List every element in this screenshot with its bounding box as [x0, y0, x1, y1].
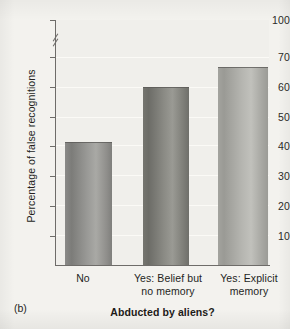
bar-yes-belief-no-memory[interactable] — [143, 87, 189, 265]
y-tick — [50, 87, 55, 88]
x-category-label-no: No — [47, 272, 119, 285]
y-axis-line — [55, 20, 56, 266]
y-tick-label-60: 60 — [246, 82, 290, 92]
panel-label: (b) — [14, 302, 27, 314]
y-tick — [50, 236, 55, 237]
bar-cap — [143, 87, 189, 88]
y-tick-label-70: 70 — [246, 52, 290, 62]
bar-cap — [218, 67, 268, 68]
x-category-label-explicit: Yes: Explicit memory — [210, 272, 288, 297]
y-tick — [50, 117, 55, 118]
y-tick — [50, 146, 55, 147]
x-category-line: memory — [210, 285, 288, 298]
x-category-line: Yes: Belief but — [122, 272, 214, 285]
y-axis-title: Percentage of false recognitions — [25, 41, 37, 251]
y-tick-label-40: 40 — [246, 141, 290, 151]
y-tick — [50, 176, 55, 177]
plot-area — [56, 20, 269, 265]
y-tick-label-100: 100 — [246, 15, 290, 25]
x-axis-line — [55, 265, 270, 266]
x-category-line: No — [47, 272, 119, 285]
bar-cap — [65, 142, 112, 143]
y-tick-label-30: 30 — [246, 171, 290, 181]
axis-break-icon — [50, 33, 61, 46]
y-tick — [50, 57, 55, 58]
figure-panel: 100 70 60 50 40 30 20 10 No Yes: Belief … — [0, 0, 290, 329]
x-category-line: no memory — [122, 285, 214, 298]
y-tick-label-20: 20 — [246, 201, 290, 211]
y-tick — [50, 20, 55, 21]
x-category-line: Yes: Explicit — [210, 272, 288, 285]
y-tick — [50, 206, 55, 207]
y-tick-label-50: 50 — [246, 112, 290, 122]
bar-no[interactable] — [65, 142, 112, 265]
x-category-label-belief: Yes: Belief but no memory — [122, 272, 214, 297]
y-tick-label-10: 10 — [246, 231, 290, 241]
x-axis-title: Abducted by aliens? — [56, 306, 269, 318]
gridline — [56, 57, 269, 58]
